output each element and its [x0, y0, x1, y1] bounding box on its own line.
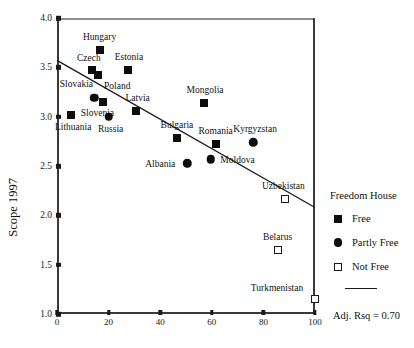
x-tick-label: 80: [259, 317, 268, 327]
data-point-marker: [281, 195, 289, 203]
x-tick-label: 40: [156, 317, 165, 327]
y-tick-label: 1.0: [40, 309, 52, 319]
legend-item: Not Free: [330, 258, 398, 275]
data-point-marker: [249, 138, 258, 147]
data-point-label: Latvia: [126, 93, 150, 103]
data-point-marker: [311, 295, 319, 303]
y-tick-label: 4.0: [40, 13, 52, 23]
legend-item: Partly Free: [330, 234, 398, 251]
data-point-label: Mongolia: [187, 85, 224, 95]
x-tick-label: 100: [308, 317, 322, 327]
data-point-marker: [94, 71, 102, 79]
legend-marker: [330, 263, 346, 271]
data-point-marker: [124, 66, 132, 74]
data-point-label: Turkmenistan: [251, 283, 303, 293]
legend: Freedom House FreePartly FreeNot Free: [330, 190, 398, 282]
data-point-marker: [200, 99, 208, 107]
data-point-marker: [212, 140, 220, 148]
data-point-label: Estonia: [115, 52, 144, 62]
data-point-marker: [104, 112, 113, 121]
data-point-marker: [99, 98, 107, 106]
data-point-marker: [206, 155, 215, 164]
y-tick-label: 3.0: [40, 112, 52, 122]
scatter-plot-figure: Scope 1997 1.01.52.02.53.03.54.0 0204060…: [0, 0, 414, 348]
y-tick-label: 2.0: [40, 210, 52, 220]
legend-item-label: Not Free: [352, 261, 389, 272]
data-point-label: Czech: [77, 53, 101, 63]
legend-trendline-sample: [345, 288, 377, 289]
data-point-label: Albania: [145, 159, 175, 169]
data-point-marker: [132, 107, 140, 115]
y-tick-label: 1.5: [40, 260, 52, 270]
data-point-marker: [90, 94, 99, 103]
data-point-label: Kyrgyzstan: [233, 124, 277, 134]
legend-items: FreePartly FreeNot Free: [330, 210, 398, 275]
y-tick-label: 2.5: [40, 161, 52, 171]
legend-item: Free: [330, 210, 398, 227]
data-point-label: Russia: [98, 124, 123, 134]
y-axis-title: Scope 1997: [6, 178, 21, 237]
data-point-label: Belarus: [263, 232, 292, 242]
data-point-label: Hungary: [83, 32, 116, 42]
legend-marker: [330, 238, 346, 247]
data-point-label: Poland: [104, 81, 130, 91]
data-point-label: Bulgaria: [161, 120, 194, 130]
legend-item-label: Free: [352, 213, 371, 224]
data-point-marker: [274, 246, 282, 254]
data-point-label: Lithuania: [55, 122, 91, 132]
x-tick-label: 60: [207, 317, 216, 327]
data-point-marker: [183, 159, 192, 168]
data-point-marker: [67, 111, 75, 119]
data-point-label: Romania: [199, 126, 233, 136]
y-tick-label: 3.5: [40, 62, 52, 72]
x-tick-label: 20: [104, 317, 113, 327]
data-point-label: Uzbekistan: [262, 181, 305, 191]
x-tick-label: 0: [55, 317, 60, 327]
legend-item-label: Partly Free: [352, 237, 398, 248]
filled-circle-icon: [334, 238, 343, 247]
data-point-label: Moldova: [220, 155, 254, 165]
legend-marker: [330, 215, 346, 223]
rsq-annotation: Adj. Rsq = 0.70: [333, 310, 400, 321]
data-point-label: Slovakia: [60, 79, 93, 89]
filled-square-icon: [334, 215, 342, 223]
open-square-icon: [334, 263, 342, 271]
data-point-marker: [173, 134, 181, 142]
plot-area: 1.01.52.02.53.03.54.0 020406080100 Hunga…: [57, 18, 315, 314]
legend-title: Freedom House: [330, 190, 398, 201]
